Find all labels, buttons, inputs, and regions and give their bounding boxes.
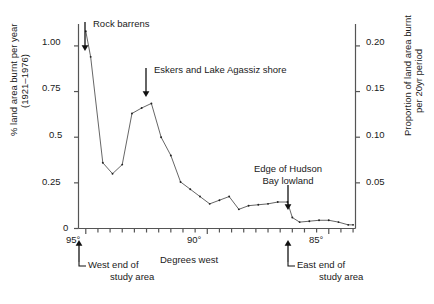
- y-right-tick-label-0-05: 0.05: [366, 176, 385, 187]
- y-axis-right-title: Proportion of land area burnt per 20yr p…: [402, 26, 424, 136]
- y-right-tick-label-0-15: 0.15: [366, 82, 385, 93]
- annotation-west-line1: West end of: [88, 259, 139, 270]
- fire-frequency-line-chart: % land area burnt per year (1921–1976) P…: [0, 0, 434, 304]
- y-axis-left-title: % land area burnt per year (1921–1976): [8, 26, 30, 136]
- bracket-east-end: [288, 262, 295, 266]
- y-axis-left-ticks: [74, 46, 79, 229]
- x-tick-label-90: 90°: [187, 234, 201, 245]
- y-right-tick-label-0-20: 0.20: [366, 36, 385, 47]
- y-axis-left-title-line2: (1921–1976): [19, 54, 30, 108]
- y-axis-right-title-line2: per 20yr period: [413, 49, 424, 113]
- annotation-eskers-lake-agassiz: Eskers and Lake Agassiz shore: [154, 64, 287, 76]
- annotation-east-line2: study area: [319, 271, 363, 283]
- x-axis-title: Degrees west: [160, 254, 218, 265]
- y-axis-left-title-line1: % land area burnt per year: [8, 24, 19, 136]
- annotation-hudson-line1: Edge of Hudson: [254, 163, 322, 174]
- annotation-hudson-bay-lowland: Edge of Hudson Bay lowland: [236, 163, 340, 186]
- annotation-west-end-of-study-area: West end of study area: [88, 259, 154, 282]
- y-right-tick-label-0-10: 0.10: [366, 129, 385, 140]
- annotation-east-end-of-study-area: East end of study area: [297, 259, 363, 282]
- annotation-hudson-line2: Bay lowland: [262, 175, 313, 186]
- y-tick-label-0-75: 0.75: [42, 82, 61, 93]
- y-tick-label-1-00: 1.00: [42, 36, 61, 47]
- bracket-west-end: [79, 262, 86, 266]
- annotation-west-line2: study area: [110, 271, 154, 283]
- y-tick-label-0-25: 0.25: [42, 176, 61, 187]
- annotation-arrows: [79, 22, 295, 266]
- y-tick-label-0: 0: [63, 222, 68, 233]
- data-series-line: [86, 31, 353, 225]
- data-series-markers: [85, 30, 354, 225]
- annotation-east-line1: East end of: [297, 259, 345, 270]
- y-axis-right-title-line1: Proportion of land area burnt: [402, 15, 413, 136]
- y-axis-right-ticks: [356, 46, 361, 183]
- annotation-rock-barrens: Rock barrens: [93, 18, 150, 30]
- y-tick-label-0-5: 0.5: [49, 129, 62, 140]
- x-tick-label-85: 85°: [309, 234, 323, 245]
- x-tick-label-95: 95°: [66, 234, 80, 245]
